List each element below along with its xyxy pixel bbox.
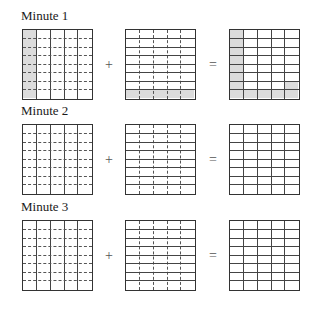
row-divider	[230, 263, 299, 264]
row-divider	[230, 229, 299, 230]
middle-grid	[125, 220, 196, 291]
result-grid	[229, 29, 300, 100]
shaded-cell	[153, 90, 167, 99]
row-divider	[230, 64, 299, 65]
row-divider	[126, 89, 195, 90]
row-divider-dashed	[23, 238, 92, 239]
row-divider	[230, 272, 299, 273]
row-divider	[230, 159, 299, 160]
row-divider-dashed	[23, 184, 92, 185]
row-divider-dashed	[23, 280, 92, 281]
row-divider	[126, 142, 195, 143]
row-divider	[126, 55, 195, 56]
row-divider	[126, 176, 195, 177]
row-divider	[230, 55, 299, 56]
row-divider	[126, 150, 195, 151]
row-divider	[126, 246, 195, 247]
row-divider-dashed	[23, 47, 92, 48]
row-divider	[126, 72, 195, 73]
shaded-cell	[230, 90, 244, 99]
row-divider-dashed	[23, 255, 92, 256]
row-divider-dashed	[23, 229, 92, 230]
shaded-cell	[257, 90, 271, 99]
row-divider-dashed	[23, 263, 92, 264]
row-divider-dashed	[23, 64, 92, 65]
row-divider	[126, 47, 195, 48]
row-divider	[230, 255, 299, 256]
row-divider	[230, 238, 299, 239]
panel-title: Minute 2	[21, 104, 68, 118]
row-divider	[230, 150, 299, 151]
row-divider	[126, 64, 195, 65]
shaded-cell	[126, 90, 140, 99]
row-divider	[230, 89, 299, 90]
middle-grid	[125, 29, 196, 100]
left-grid	[22, 220, 93, 291]
row-divider	[230, 280, 299, 281]
row-divider	[126, 133, 195, 134]
shaded-cell	[167, 90, 181, 99]
row-divider	[126, 81, 195, 82]
equals-sign: =	[209, 58, 217, 72]
result-grid	[229, 124, 300, 195]
row-divider	[230, 184, 299, 185]
row-divider	[126, 280, 195, 281]
row-divider-dashed	[23, 159, 92, 160]
row-divider-dashed	[23, 72, 92, 73]
equals-sign: =	[209, 249, 217, 263]
shaded-cell	[23, 90, 37, 99]
middle-grid	[125, 124, 196, 195]
row-divider-dashed	[23, 142, 92, 143]
shaded-cell	[181, 90, 195, 99]
row-divider-dashed	[23, 176, 92, 177]
row-divider-dashed	[23, 55, 92, 56]
row-divider	[230, 142, 299, 143]
row-divider	[230, 38, 299, 39]
row-divider-dashed	[23, 81, 92, 82]
row-divider	[230, 133, 299, 134]
equals-sign: =	[209, 153, 217, 167]
row-divider	[126, 263, 195, 264]
row-divider	[230, 246, 299, 247]
row-divider	[126, 184, 195, 185]
shaded-cell	[244, 90, 258, 99]
row-divider-dashed	[23, 150, 92, 151]
shaded-cell	[140, 90, 154, 99]
row-divider	[230, 176, 299, 177]
row-divider	[230, 72, 299, 73]
row-divider-dashed	[23, 38, 92, 39]
row-divider-dashed	[23, 246, 92, 247]
row-divider-dashed	[23, 89, 92, 90]
row-divider	[126, 159, 195, 160]
row-divider-dashed	[23, 133, 92, 134]
row-divider-dashed	[23, 167, 92, 168]
shaded-cell	[285, 90, 299, 99]
row-divider	[126, 238, 195, 239]
row-divider	[230, 81, 299, 82]
left-grid	[22, 29, 93, 100]
row-divider	[126, 272, 195, 273]
shaded-cell	[271, 90, 285, 99]
panel-title: Minute 1	[21, 9, 68, 23]
row-divider	[126, 255, 195, 256]
plus-sign: +	[105, 249, 113, 263]
result-grid	[229, 220, 300, 291]
row-divider	[230, 47, 299, 48]
row-divider-dashed	[23, 272, 92, 273]
left-grid	[22, 124, 93, 195]
plus-sign: +	[105, 153, 113, 167]
row-divider	[230, 167, 299, 168]
row-divider	[126, 229, 195, 230]
row-divider	[126, 38, 195, 39]
plus-sign: +	[105, 58, 113, 72]
row-divider	[126, 167, 195, 168]
panel-title: Minute 3	[21, 200, 68, 214]
